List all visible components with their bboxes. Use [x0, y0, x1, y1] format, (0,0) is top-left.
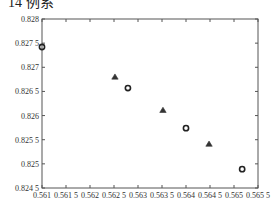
axis-ticks: 0.5610.561 50.5620.562 50.5630.563 50.56…: [15, 15, 270, 200]
circle-marker: [125, 85, 130, 90]
y-tick-label: 0.827 5: [15, 39, 39, 48]
x-tick-label: 0.564 5: [198, 191, 222, 200]
scatter-plot: 0.5610.561 50.5620.562 50.5630.563 50.56…: [0, 0, 280, 212]
data-points: [39, 44, 244, 171]
x-tick-label: 0.563: [129, 191, 147, 200]
y-tick-label: 0.826: [21, 112, 39, 121]
x-tick-label: 0.565: [225, 191, 243, 200]
y-tick-label: 0.826 5: [15, 87, 39, 96]
circle-marker: [240, 167, 245, 172]
plot-axes: [42, 19, 258, 188]
x-tick-label: 0.563 5: [150, 191, 174, 200]
plot-frame: [42, 19, 258, 188]
x-tick-label: 0.562 5: [102, 191, 126, 200]
y-tick-label: 0.827: [21, 63, 39, 72]
triangle-marker: [112, 74, 118, 79]
x-tick-label: 0.565 5: [246, 191, 270, 200]
x-tick-label: 0.561 5: [54, 191, 78, 200]
x-tick-label: 0.562: [81, 191, 99, 200]
x-tick-label: 0.564: [177, 191, 195, 200]
circle-marker: [183, 126, 188, 131]
triangle-marker: [160, 107, 166, 112]
y-tick-label: 0.828: [21, 15, 39, 24]
y-tick-label: 0.825 5: [15, 136, 39, 145]
y-tick-label: 0.825: [21, 160, 39, 169]
triangle-marker: [206, 141, 212, 146]
y-tick-label: 0.824 5: [15, 184, 39, 193]
